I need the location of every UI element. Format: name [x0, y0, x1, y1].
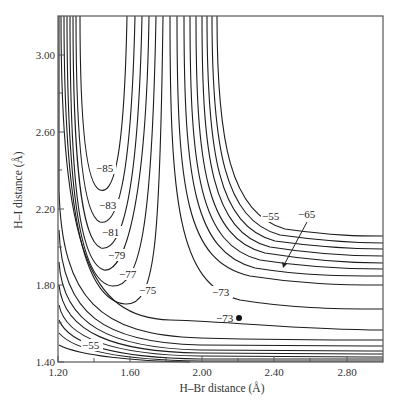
- contour-label-77: −77: [119, 268, 137, 280]
- x-axis-title: H–Br distance (Å): [180, 381, 265, 395]
- contour-65: [196, 16, 383, 263]
- potential-energy-contour-plot: 1.20 1.60 2.00 2.40 2.80 1.40 1.80 2.20 …: [0, 0, 403, 408]
- x-tick-2.00: 2.00: [192, 366, 212, 378]
- x-tick-1.60: 1.60: [120, 366, 140, 378]
- contour-label-55-lower: −55: [82, 339, 100, 351]
- y-axis-title: H–I distance (Å): [11, 151, 25, 228]
- contour-label-55-right: −55: [262, 210, 280, 222]
- contour-label-73-upper: −73: [212, 286, 230, 298]
- x-tick-2.40: 2.40: [264, 366, 284, 378]
- y-tick-1.40: 1.40: [36, 356, 56, 368]
- y-tick-2.60: 2.60: [36, 126, 56, 138]
- x-tick-labels: 1.20 1.60 2.00 2.40 2.80: [48, 366, 357, 378]
- contour-label-85: −85: [96, 162, 114, 174]
- contour-63: [202, 16, 383, 256]
- y-tick-3.00: 3.00: [36, 49, 56, 61]
- contour-81: [73, 16, 142, 248]
- contour-57: [217, 16, 383, 236]
- y-tick-2.20: 2.20: [36, 203, 56, 215]
- contour-67: [190, 16, 383, 269]
- contour-label-83: −83: [99, 199, 117, 211]
- contour-label-79: −79: [108, 249, 126, 261]
- contour-label-75: −75: [139, 284, 157, 296]
- contour-label-73-point: −73: [216, 312, 234, 324]
- saddle-point-marker: [236, 315, 242, 321]
- contour-label-65: −65: [298, 208, 316, 220]
- y-tick-1.80: 1.80: [36, 279, 56, 291]
- contour-labels: −85 −83 −81 −79 −77 −75 −73 −73 −55 −65 …: [81, 162, 316, 351]
- y-tick-labels: 1.40 1.80 2.20 2.60 3.00: [36, 49, 56, 368]
- contour-61: [207, 16, 383, 249]
- contour-lines: [59, 16, 383, 362]
- x-tick-2.80: 2.80: [337, 366, 357, 378]
- contour-label-81: −81: [102, 226, 119, 238]
